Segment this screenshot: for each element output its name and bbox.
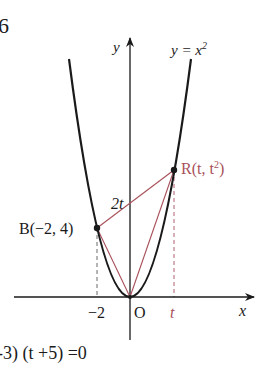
x-tick-neg2: −2 — [88, 304, 105, 321]
x-tick-t: t — [170, 304, 175, 321]
point-b — [94, 225, 100, 231]
bottom-equation: -3) (t +5) =0 — [0, 343, 87, 364]
point-b-label: B(−2, 4) — [19, 220, 73, 238]
x-axis-label: x — [238, 302, 246, 319]
point-origin — [128, 295, 132, 299]
problem-number: 6 — [0, 13, 9, 38]
parabola-diagram: 6 y y = x2 R(t, t2) 2t B(−2, 4) −2 O t x… — [0, 0, 265, 368]
point-r — [171, 167, 177, 173]
origin-label: O — [134, 304, 146, 321]
y-axis-label: y — [111, 39, 120, 55]
point-r-label: R(t, t2) — [181, 159, 224, 178]
segment-length-label: 2t — [111, 195, 124, 212]
curve-label: y = x2 — [169, 40, 207, 58]
